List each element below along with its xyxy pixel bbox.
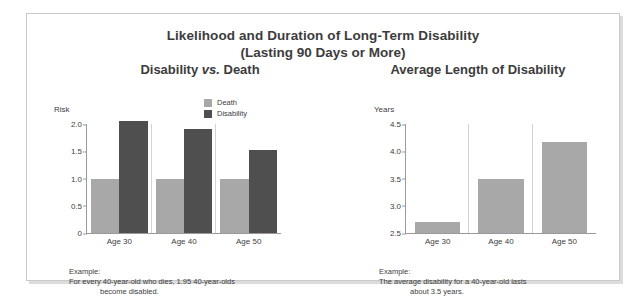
right-caption-line1: The average disability for a 40-year-old… [379, 277, 527, 286]
right-chart-y-axis-title: Years [374, 105, 394, 114]
right-chart-caption: Example: The average disability for a 40… [379, 257, 629, 301]
left-chart-bar [119, 121, 147, 233]
right-chart-bar [415, 222, 460, 233]
left-chart-group-separator [151, 124, 152, 233]
right-caption-line2: about 3.5 years. [410, 287, 629, 297]
right-chart-y-tick: 3.0 [390, 201, 406, 210]
left-chart-caption: Example: For every 40-year-old who dies,… [69, 257, 349, 301]
chart-panel: Likelihood and Duration of Long-Term Dis… [26, 13, 620, 281]
right-chart-bar [542, 142, 587, 233]
right-chart-y-tick: 4.0 [390, 147, 406, 156]
right-chart-y-tick: 4.5 [390, 120, 406, 129]
left-chart-x-label: Age 30 [107, 237, 132, 246]
right-chart-plot-area: 4.54.03.53.02.5Age 30Age 40Age 50 [405, 124, 596, 234]
left-chart-y-tick: 2.0 [71, 120, 87, 129]
left-chart-x-label: Age 50 [236, 237, 261, 246]
right-chart-y-tick: 3.5 [390, 174, 406, 183]
chart-average-length-of-disability: Years 4.54.03.53.02.5Age 30Age 40Age 50 [327, 14, 621, 282]
left-chart-y-axis-title: Risk [54, 105, 70, 114]
left-chart-y-tick: 1.5 [71, 147, 87, 156]
left-chart-x-label: Age 40 [171, 237, 196, 246]
left-caption-label: Example: [69, 267, 100, 276]
right-chart-x-label: Age 50 [552, 237, 577, 246]
left-chart-y-tick: 0.5 [71, 201, 87, 210]
right-chart-x-label: Age 40 [488, 237, 513, 246]
left-chart-bar [156, 179, 184, 234]
right-chart-group-separator [468, 124, 469, 233]
chart-disability-vs-death: Risk 2.01.51.00.50Age 30Age 40Age 50 [27, 14, 327, 282]
right-caption-label: Example: [379, 267, 410, 276]
right-chart-bar [478, 179, 523, 234]
right-chart-group-separator [532, 124, 533, 233]
right-chart-x-label: Age 30 [425, 237, 450, 246]
left-chart-bar [249, 150, 277, 233]
left-caption-line2: become disabled. [100, 287, 349, 297]
left-chart-y-tick: 0 [78, 229, 87, 238]
right-chart-y-tick: 2.5 [390, 229, 406, 238]
left-chart-bar [184, 129, 212, 233]
left-caption-line1: For every 40-year-old who dies, 1.95 40-… [69, 277, 235, 286]
left-chart-y-tick: 1.0 [71, 174, 87, 183]
left-chart-group-separator [215, 124, 216, 233]
left-chart-plot-area: 2.01.51.00.50Age 30Age 40Age 50 [86, 124, 281, 234]
left-chart-bar [220, 179, 248, 234]
left-chart-bar [91, 179, 119, 234]
